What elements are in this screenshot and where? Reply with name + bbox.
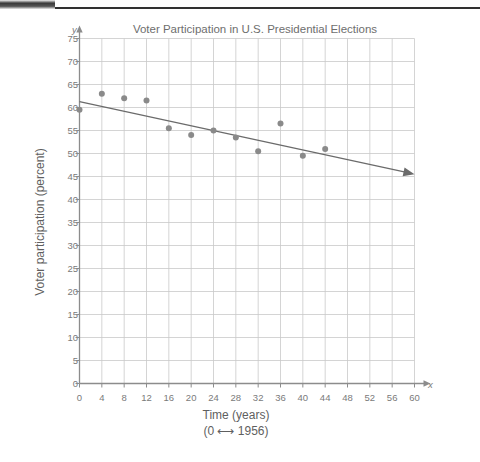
data-points (77, 91, 329, 159)
data-point (144, 98, 150, 104)
axis-lines (76, 26, 431, 388)
x-axis-arrowhead (424, 380, 431, 386)
trend-line-segment (80, 102, 408, 173)
data-point (322, 146, 328, 152)
data-point (278, 121, 284, 127)
trend-line (80, 102, 415, 177)
data-point (188, 132, 194, 138)
y-axis-arrowhead (76, 26, 82, 33)
data-point (211, 128, 217, 134)
data-point (233, 134, 239, 140)
data-point (99, 91, 105, 97)
data-point (77, 107, 83, 113)
trend-line-arrowhead (403, 167, 415, 176)
data-point (166, 125, 172, 131)
data-point (300, 153, 306, 159)
data-point (121, 95, 127, 101)
gridlines (80, 39, 415, 384)
data-point (255, 148, 261, 154)
